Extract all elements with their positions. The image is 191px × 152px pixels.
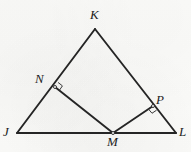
point-label-j: J [3,125,9,138]
geometry-canvas [0,0,191,152]
segment-nm [55,87,113,133]
right-angle-mark-p [148,109,156,113]
point-label-p: P [156,93,164,106]
vertex-dots-group [54,86,155,135]
angle-marks-group [58,82,156,113]
point-label-m: M [107,135,118,148]
segment-pm [113,106,153,133]
point-dot-p [152,105,155,108]
geometry-diagram: JKLNPM [0,0,191,152]
point-label-k: K [90,8,99,21]
point-label-n: N [35,72,44,85]
segment-jk [17,29,95,133]
point-label-l: L [179,125,186,138]
point-dot-n [54,86,57,89]
